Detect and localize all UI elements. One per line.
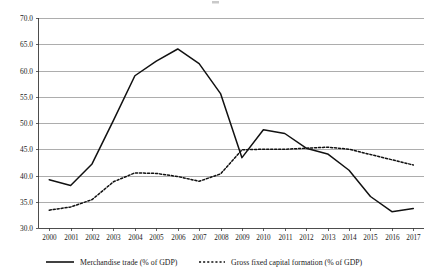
x-tick-label: 2000 (42, 234, 57, 242)
x-tick-label: 2011 (278, 234, 293, 242)
line-chart-canvas: 30.035.040.045.050.055.060.065.070.0 200… (0, 0, 431, 276)
x-tick-label: 2016 (385, 234, 400, 242)
chart-figure: 30.035.040.045.050.055.060.065.070.0 200… (0, 0, 431, 276)
x-tick-label: 2010 (256, 234, 271, 242)
x-tick-label: 2013 (321, 234, 336, 242)
y-tick-label: 55.0 (20, 93, 33, 102)
y-tick-label: 70.0 (20, 14, 33, 23)
x-tick-label: 2005 (149, 234, 164, 242)
x-tick-label: 2006 (171, 234, 186, 242)
y-tick-label: 65.0 (20, 40, 33, 49)
y-tick-label: 60.0 (20, 67, 33, 76)
x-tick-label: 2008 (214, 234, 229, 242)
x-tick-label: 2007 (192, 234, 207, 242)
legend-label-merchandise-trade: Merchandise trade (% of GDP) (80, 258, 178, 267)
y-tick-label: 30.0 (20, 224, 33, 233)
x-tick-label: 2004 (128, 234, 143, 242)
x-tick-label: 2009 (235, 234, 250, 242)
y-tick-label: 45.0 (20, 145, 33, 154)
x-tick-label: 2003 (106, 234, 121, 242)
x-tick-label: 2014 (342, 234, 357, 242)
x-tick-label: 2015 (363, 234, 378, 242)
y-tick-label: 50.0 (20, 119, 33, 128)
x-tick-label: 2001 (64, 234, 79, 242)
x-tick-label: 2017 (406, 234, 421, 242)
x-tick-label: 2002 (85, 234, 100, 242)
x-tick-label: 2012 (299, 234, 314, 242)
page-crop-mark (212, 1, 219, 4)
legend-label-gross-fixed-capital-formation: Gross fixed capital formation (% of GDP) (231, 258, 363, 267)
y-tick-label: 40.0 (20, 172, 33, 181)
y-tick-label: 35.0 (20, 198, 33, 207)
y-axis-tick-labels: 30.035.040.045.050.055.060.065.070.0 (20, 14, 33, 233)
